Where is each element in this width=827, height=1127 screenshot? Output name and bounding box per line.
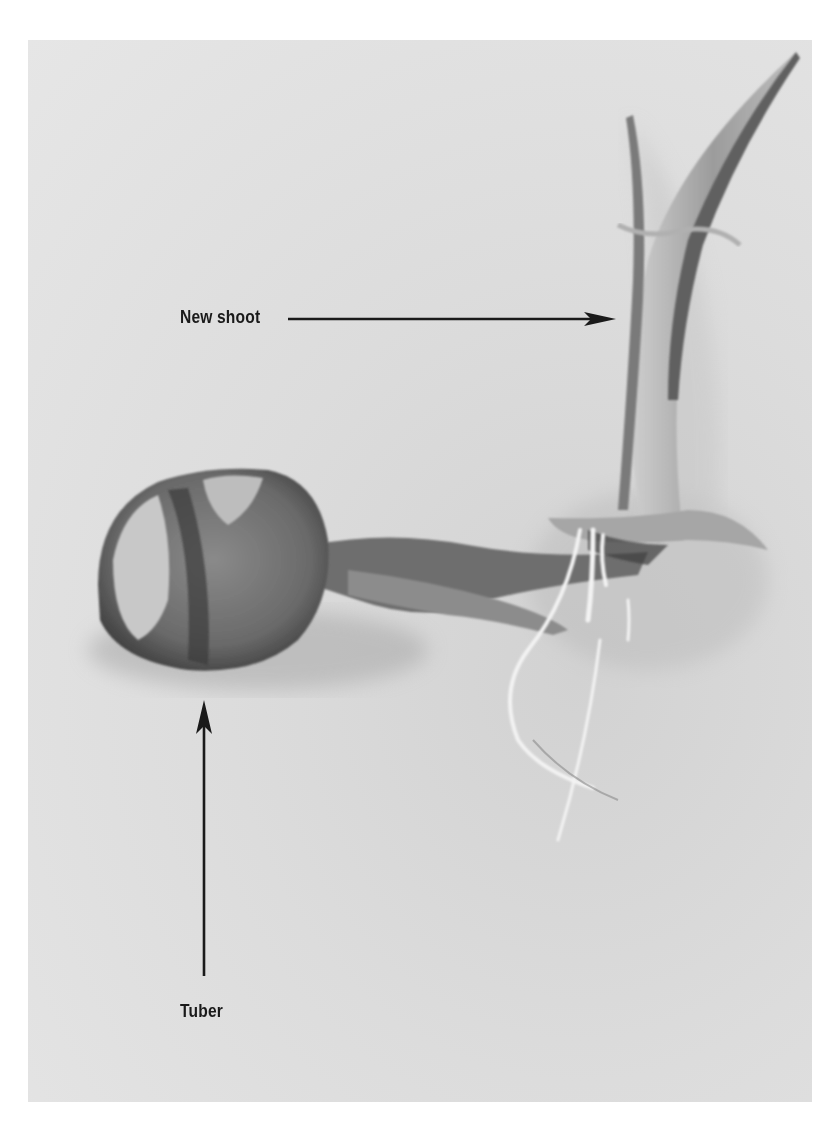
arrow-up-icon	[194, 700, 214, 980]
photograph	[28, 40, 812, 1102]
label-tuber: Tuber	[180, 1000, 223, 1022]
tuber-sprout-illustration	[28, 40, 812, 1102]
label-new-shoot: New shoot	[180, 306, 260, 328]
arrow-right-icon	[288, 310, 618, 328]
